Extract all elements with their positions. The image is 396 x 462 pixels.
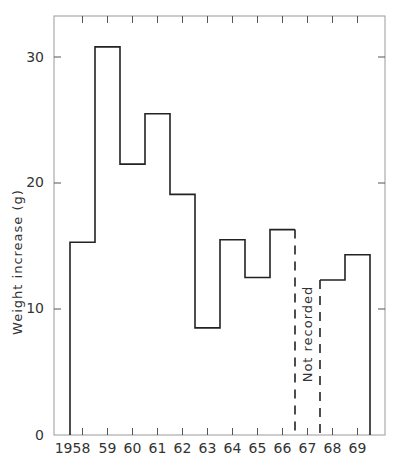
y-tick-20: 20 [26,174,44,190]
ticks [54,16,385,435]
x-tick-label: 59 [99,440,117,456]
x-tick-label: 64 [224,440,242,456]
x-tick-labels: 19585960616263646566676869 [55,440,367,456]
x-tick-label: 68 [324,440,342,456]
chart: 0 10 20 30 19585960616263646566676869 We… [0,0,396,462]
x-tick-label: 62 [174,440,192,456]
y-tick-0: 0 [35,427,44,443]
y-tick-30: 30 [26,49,44,65]
x-tick-label: 61 [149,440,167,456]
histogram-outline [70,47,370,435]
y-tick-10: 10 [26,300,44,316]
x-tick-label: 60 [124,440,142,456]
not-recorded-annotation: Not recorded [300,286,315,383]
x-tick-label: 66 [274,440,292,456]
x-tick-label: 65 [249,440,267,456]
histogram-steps [70,47,370,435]
x-tick-label: 1958 [55,440,91,456]
x-tick-label: 63 [199,440,217,456]
x-tick-label: 67 [299,440,317,456]
y-axis-label: Weight increase (g) [10,189,25,335]
x-tick-label: 69 [349,440,367,456]
plot-frame [54,16,385,435]
y-tick-labels: 0 10 20 30 [26,49,44,443]
chart-svg: 0 10 20 30 19585960616263646566676869 We… [0,0,396,462]
